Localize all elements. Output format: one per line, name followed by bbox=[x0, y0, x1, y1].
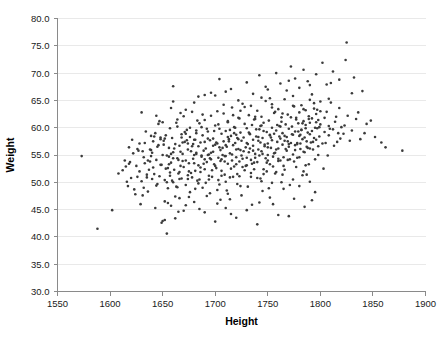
data-point bbox=[138, 142, 141, 145]
data-point bbox=[268, 187, 271, 190]
data-point bbox=[179, 112, 182, 115]
data-point bbox=[218, 183, 221, 186]
data-point bbox=[318, 135, 321, 138]
y-tick-label: 35.0 bbox=[31, 259, 50, 270]
data-point bbox=[146, 173, 149, 176]
data-point bbox=[159, 136, 162, 139]
x-tick-label: 1650 bbox=[152, 298, 173, 309]
data-point bbox=[277, 108, 280, 111]
data-point bbox=[266, 142, 269, 145]
data-point bbox=[137, 149, 140, 152]
data-point bbox=[189, 126, 192, 129]
data-point bbox=[315, 138, 318, 141]
data-point bbox=[240, 140, 243, 143]
data-point bbox=[304, 164, 307, 167]
data-point bbox=[305, 140, 308, 143]
data-point bbox=[194, 138, 197, 141]
data-point bbox=[238, 160, 241, 163]
data-point bbox=[211, 176, 214, 179]
data-point bbox=[314, 191, 317, 194]
data-point bbox=[311, 93, 314, 96]
data-point bbox=[355, 118, 358, 121]
data-point bbox=[151, 152, 154, 155]
data-point bbox=[266, 146, 269, 149]
data-point bbox=[288, 79, 291, 82]
data-point bbox=[253, 118, 256, 121]
data-point bbox=[154, 207, 157, 210]
data-point bbox=[333, 144, 336, 147]
data-point bbox=[222, 140, 225, 143]
y-tick-label: 30.0 bbox=[31, 286, 50, 297]
data-point bbox=[187, 174, 190, 177]
data-point bbox=[131, 138, 134, 141]
data-point bbox=[309, 147, 312, 150]
data-point bbox=[170, 153, 173, 156]
data-point bbox=[134, 193, 137, 196]
data-point bbox=[247, 185, 250, 188]
data-point bbox=[262, 168, 265, 171]
data-point bbox=[187, 142, 190, 145]
data-point bbox=[227, 136, 230, 139]
data-point bbox=[125, 165, 128, 168]
data-point bbox=[274, 111, 277, 114]
data-point bbox=[245, 81, 248, 84]
data-point bbox=[257, 136, 260, 139]
data-point bbox=[217, 156, 220, 159]
data-point bbox=[283, 140, 286, 143]
data-point bbox=[174, 217, 177, 220]
data-point bbox=[245, 209, 248, 212]
data-point bbox=[245, 142, 248, 145]
data-point bbox=[262, 173, 265, 176]
data-point bbox=[156, 146, 159, 149]
data-point bbox=[224, 207, 227, 210]
data-point bbox=[304, 127, 307, 130]
data-point bbox=[158, 120, 161, 123]
data-point bbox=[166, 232, 169, 235]
data-point bbox=[171, 179, 174, 182]
data-point bbox=[132, 152, 135, 155]
data-point bbox=[198, 208, 201, 211]
data-point bbox=[268, 119, 271, 122]
data-point bbox=[208, 178, 211, 181]
data-point bbox=[168, 155, 171, 158]
data-point bbox=[184, 159, 187, 162]
data-point bbox=[361, 90, 364, 93]
data-point bbox=[288, 127, 291, 130]
data-point bbox=[298, 111, 301, 114]
data-point bbox=[291, 125, 294, 128]
data-point bbox=[240, 154, 243, 157]
data-point bbox=[203, 119, 206, 122]
data-point bbox=[165, 134, 168, 137]
data-point bbox=[276, 141, 279, 144]
data-point bbox=[239, 149, 242, 152]
data-point bbox=[172, 157, 175, 160]
data-point bbox=[111, 209, 114, 212]
data-point bbox=[330, 82, 333, 85]
data-point bbox=[182, 209, 185, 212]
data-point bbox=[166, 181, 169, 184]
data-point bbox=[238, 175, 241, 178]
data-point bbox=[322, 167, 325, 170]
data-point bbox=[209, 192, 212, 195]
data-point bbox=[192, 143, 195, 146]
data-point bbox=[286, 113, 289, 116]
data-point bbox=[243, 169, 246, 172]
data-point bbox=[329, 127, 332, 130]
y-tick-label: 80.0 bbox=[31, 13, 50, 24]
data-point bbox=[201, 186, 204, 189]
data-point bbox=[209, 157, 212, 160]
data-point bbox=[262, 121, 265, 124]
data-point bbox=[175, 121, 178, 124]
data-point bbox=[142, 156, 145, 159]
data-point bbox=[121, 169, 124, 172]
data-point bbox=[178, 144, 181, 147]
data-point bbox=[261, 153, 264, 156]
data-point bbox=[280, 181, 283, 184]
data-point bbox=[143, 162, 146, 165]
data-point bbox=[327, 125, 330, 128]
data-point bbox=[317, 145, 320, 148]
data-point bbox=[230, 167, 233, 170]
data-point bbox=[126, 180, 129, 183]
data-point bbox=[319, 100, 322, 103]
data-point bbox=[340, 126, 343, 129]
